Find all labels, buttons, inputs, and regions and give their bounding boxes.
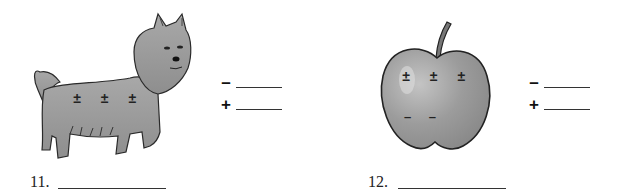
dog-positive-answer: + <box>220 96 282 113</box>
neutral-charge-3: ± <box>455 70 467 82</box>
apple-positive-answer: + <box>528 96 590 113</box>
positive-count-blank[interactable] <box>236 108 282 110</box>
apple-extra-charges: – – <box>404 110 436 123</box>
neutral-charge-2: ± <box>428 70 440 82</box>
apple-negative-answer: – <box>528 74 590 91</box>
apple-illustration <box>375 18 495 156</box>
plus-sign: + <box>220 96 232 113</box>
answer-line-12[interactable] <box>398 188 506 189</box>
negative-count-blank[interactable] <box>236 86 282 88</box>
minus-sign: – <box>528 74 540 91</box>
neutral-charge-3: ± <box>126 92 138 104</box>
apple-icon <box>375 18 495 156</box>
answer-line-11[interactable] <box>58 188 166 189</box>
question-number-12: 12. <box>368 173 388 191</box>
dog-illustration <box>30 12 195 162</box>
dog-charges: ± ± ± <box>71 92 138 105</box>
negative-count-blank[interactable] <box>544 86 590 88</box>
question-number-11: 11. <box>30 173 49 191</box>
neutral-charge-1: ± <box>71 92 83 104</box>
extra-negative-charge-1: – <box>404 109 411 124</box>
neutral-charge-1: ± <box>400 70 412 82</box>
minus-sign: – <box>220 74 232 91</box>
terrier-dog-icon <box>30 12 195 162</box>
dog-negative-answer: – <box>220 74 282 91</box>
extra-negative-charge-2: – <box>429 109 436 124</box>
plus-sign: + <box>528 96 540 113</box>
positive-count-blank[interactable] <box>544 108 590 110</box>
neutral-charge-2: ± <box>99 92 111 104</box>
apple-charges: ± ± ± <box>400 70 467 83</box>
